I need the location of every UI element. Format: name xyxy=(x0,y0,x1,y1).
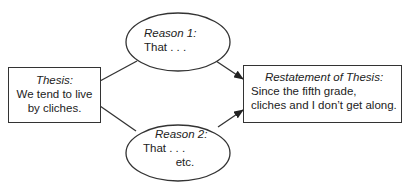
thesis-line-1: We tend to live xyxy=(8,87,101,101)
reason1-line-1: That . . . xyxy=(144,40,224,54)
reason1-node: Reason 1: That . . . xyxy=(144,26,224,54)
reason1-title: Reason 1: xyxy=(144,26,224,40)
restatement-title: Restatement of Thesis: xyxy=(247,70,401,84)
restatement-line-1: Since the fifth grade, xyxy=(251,84,401,98)
reason2-node: Reason 2: That . . . etc. xyxy=(140,127,230,169)
thesis-title: Thesis: xyxy=(8,73,101,87)
edge-thesis-reason1 xyxy=(100,61,137,81)
thesis-line-2: by cliches. xyxy=(8,101,101,115)
reason2-line-1: That . . . xyxy=(140,141,230,155)
edge-reason2-restatement xyxy=(218,110,243,127)
thesis-node: Thesis: We tend to live by cliches. xyxy=(8,73,101,115)
reason2-title: Reason 2: xyxy=(140,127,230,141)
reason2-line-2: etc. xyxy=(140,155,230,169)
restatement-node: Restatement of Thesis: Since the fifth g… xyxy=(251,70,401,112)
edge-reason1-restatement xyxy=(216,61,243,79)
restatement-line-2: cliches and I don’t get along. xyxy=(251,98,401,112)
edge-thesis-reason2 xyxy=(100,106,136,131)
